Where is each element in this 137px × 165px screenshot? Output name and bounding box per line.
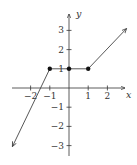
curve-right-ray (88, 29, 126, 69)
y-tick-label: −3 (51, 141, 65, 151)
point-marker (86, 67, 90, 71)
curve-left-ray (12, 69, 49, 147)
x-axis-label: x (126, 89, 132, 100)
y-tick-label: −1 (51, 102, 64, 112)
y-tick-label: 2 (58, 45, 64, 55)
x-tick-label: 2 (105, 91, 111, 101)
point-marker (67, 67, 71, 71)
x-tick-label: −1 (43, 91, 56, 101)
x-tick-label: 1 (85, 91, 91, 101)
axes (12, 14, 125, 156)
y-tick-label: −2 (51, 121, 64, 131)
function-curves (12, 29, 126, 147)
point-marker (48, 67, 52, 71)
function-graph: −2−112 321−1−2−3 x y (0, 0, 137, 165)
y-axis-label: y (75, 8, 82, 19)
y-tick-label: 3 (58, 25, 64, 35)
